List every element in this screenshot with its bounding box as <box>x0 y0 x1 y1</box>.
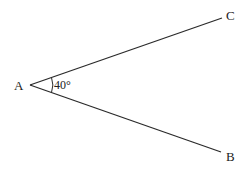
angle-arc <box>52 78 53 93</box>
point-label-c: C <box>226 9 235 22</box>
point-label-b: B <box>226 150 235 163</box>
ray-ac <box>30 18 222 85</box>
angle-diagram <box>0 0 246 170</box>
ray-ab <box>30 85 221 152</box>
angle-label: 40° <box>54 79 71 92</box>
vertex-label-a: A <box>14 79 23 92</box>
